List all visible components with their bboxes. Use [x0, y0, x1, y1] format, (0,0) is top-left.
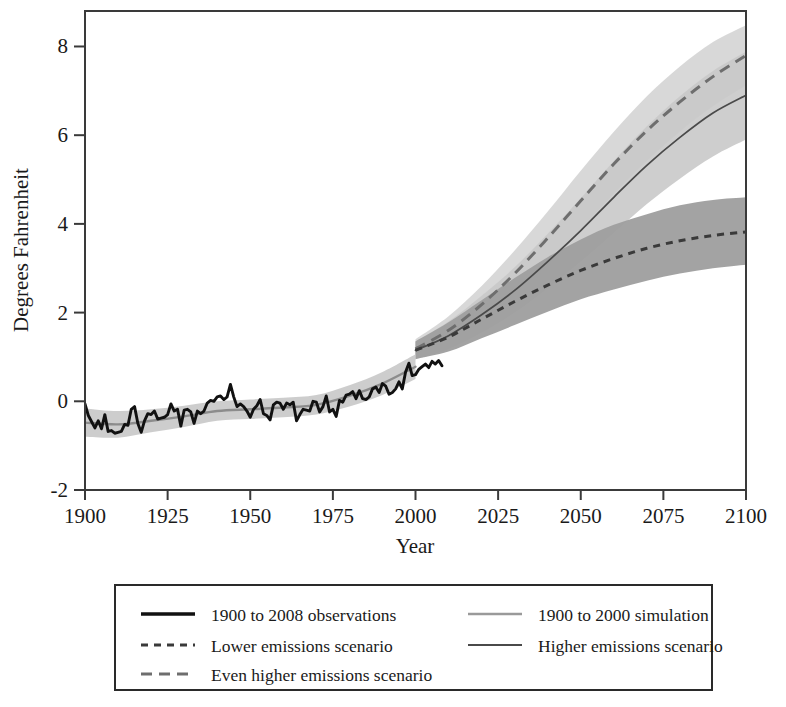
y-tick-label: 4	[58, 212, 69, 236]
x-axis-title: Year	[396, 534, 435, 558]
legend-label: Even higher emissions scenario	[211, 665, 432, 685]
x-tick-label: 1900	[64, 504, 106, 528]
y-tick-label: 2	[58, 301, 69, 325]
x-tick-label: 2100	[725, 504, 767, 528]
x-tick-label: 1925	[147, 504, 189, 528]
x-tick-label: 2025	[477, 504, 519, 528]
x-tick-label: 2075	[642, 504, 684, 528]
legend-label: Higher emissions scenario	[538, 636, 723, 656]
x-tick-label: 2050	[560, 504, 602, 528]
y-tick-label: 0	[58, 389, 69, 413]
y-axis-title: Degrees Fahrenheit	[9, 168, 33, 332]
y-tick-label: -2	[51, 478, 69, 502]
y-tick-label: 8	[58, 34, 69, 58]
x-tick-label: 2000	[395, 504, 437, 528]
y-tick-label: 6	[58, 123, 69, 147]
x-tick-label: 1950	[229, 504, 271, 528]
climate-projection-figure: 190019251950197520002025205020752100-202…	[0, 0, 786, 707]
chart-legend: 1900 to 2008 observationsLower emissions…	[115, 585, 723, 690]
legend-label: 1900 to 2000 simulation	[538, 605, 709, 625]
legend-label: 1900 to 2008 observations	[211, 605, 396, 625]
x-tick-label: 1975	[312, 504, 354, 528]
legend-label: Lower emissions scenario	[211, 636, 393, 656]
temperature-projection-chart: 190019251950197520002025205020752100-202…	[0, 0, 786, 707]
